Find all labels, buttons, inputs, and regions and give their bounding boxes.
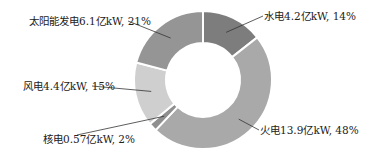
- label-solar: 太阳能发电6.1亿kW, 21%: [29, 15, 151, 27]
- label-nuclear: 核电0.57亿kW, 2%: [43, 133, 135, 145]
- label-hydro: 水电4.2亿kW, 14%: [264, 10, 356, 22]
- label-thermal: 火电13.9亿kW, 48%: [260, 124, 359, 136]
- label-wind: 风电4.4亿kW, 15%: [23, 80, 115, 92]
